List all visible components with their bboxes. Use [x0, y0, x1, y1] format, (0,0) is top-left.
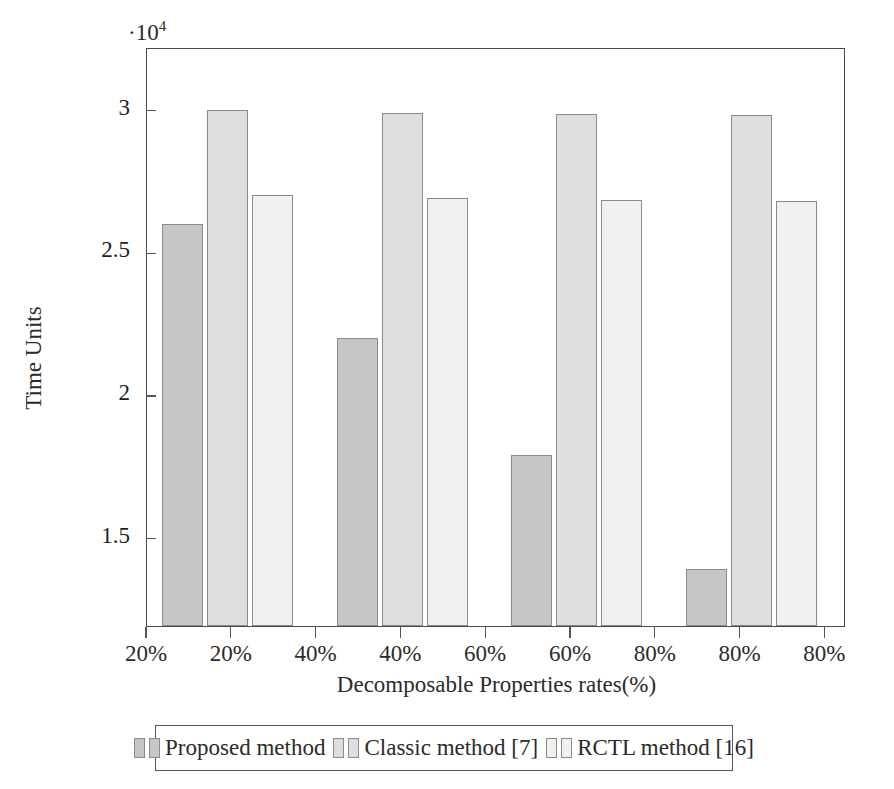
x-axis-tick-label: 40%: [281, 641, 351, 667]
legend-swatch-pair: [134, 738, 160, 758]
y-axis-ticks: 32.521.520%20%40%40%60%60%80%80%80%: [0, 0, 894, 789]
legend-swatch: [149, 738, 160, 758]
legend-swatch: [333, 738, 344, 758]
x-axis-tick-label: 80%: [705, 641, 775, 667]
y-axis-tick: [146, 538, 156, 539]
legend-swatch: [348, 738, 359, 758]
legend-swatch: [561, 738, 572, 758]
x-axis-tick-label: 40%: [365, 641, 435, 667]
y-axis-tick: [146, 253, 156, 254]
x-axis-title: Decomposable Properties rates(%): [147, 672, 846, 698]
x-axis-tick: [145, 627, 146, 638]
x-axis-tick: [400, 627, 401, 638]
legend-swatch-pair: [333, 738, 359, 758]
legend-swatch: [546, 738, 557, 758]
x-axis-tick-label: 80%: [620, 641, 690, 667]
x-axis-tick: [654, 627, 655, 638]
x-axis-tick-label: 20%: [111, 641, 181, 667]
x-axis-tick: [315, 627, 316, 638]
y-axis-tick-label: 1.5: [78, 523, 130, 549]
x-axis-tick: [739, 627, 740, 638]
legend-label: RCTL method [16]: [577, 735, 754, 761]
y-axis-tick-label: 3: [78, 95, 130, 121]
y-axis-tick-label: 2: [78, 380, 130, 406]
bar-chart-figure: ·104 Time Units 32.521.520%20%40%40%60%6…: [0, 0, 894, 789]
legend-entry: Proposed method: [130, 735, 329, 761]
x-axis-tick-label: 20%: [196, 641, 266, 667]
x-axis-tick: [230, 627, 231, 638]
x-axis-tick-label: 80%: [789, 641, 859, 667]
chart-legend: Proposed methodClassic method [7]RCTL me…: [155, 725, 733, 771]
x-axis-tick: [569, 627, 570, 638]
legend-label: Proposed method: [165, 735, 325, 761]
y-axis-tick: [146, 395, 156, 396]
legend-label: Classic method [7]: [364, 735, 538, 761]
x-axis-tick-label: 60%: [535, 641, 605, 667]
y-axis-tick: [146, 110, 156, 111]
x-axis-tick: [485, 627, 486, 638]
x-axis-tick: [824, 627, 825, 638]
legend-swatch-pair: [546, 738, 572, 758]
y-axis-tick-label: 2.5: [78, 237, 130, 263]
legend-swatch: [134, 738, 145, 758]
legend-entry: RCTL method [16]: [542, 735, 758, 761]
x-axis-tick-label: 60%: [450, 641, 520, 667]
legend-entry: Classic method [7]: [329, 735, 542, 761]
